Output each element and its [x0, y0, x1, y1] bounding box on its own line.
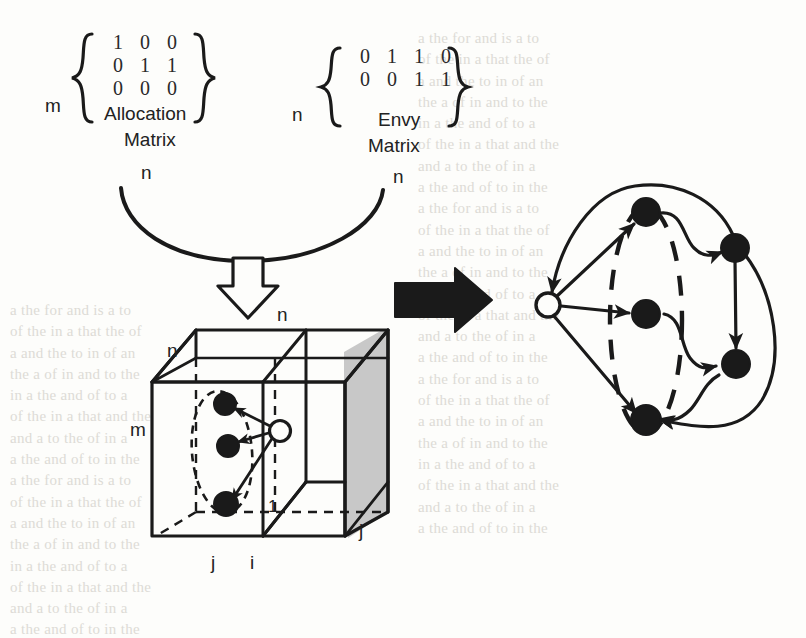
envy-matrix-cell: 1: [441, 69, 451, 89]
allocation-matrix-cell: 0: [113, 55, 123, 75]
allocation-matrix-brace-left: [72, 34, 92, 122]
allocation-matrix-cell: 0: [167, 78, 177, 98]
graph-node-filled: [631, 405, 661, 435]
graph-node-filled: [632, 300, 660, 328]
envy-matrix-cell: 0: [360, 46, 370, 66]
envy-matrix-cell: 0: [360, 69, 370, 89]
graph-node-filled: [722, 350, 750, 378]
allocation-matrix-caption-line1: Allocation: [104, 104, 186, 123]
cube-label-top-left: n: [167, 341, 178, 360]
allocation-matrix-cell: 1: [113, 32, 123, 52]
envy-matrix-caption-line1: Envy: [378, 110, 420, 129]
graph-edge: [561, 306, 629, 313]
cube-node-filled: [217, 435, 239, 457]
envy-matrix-cell: 0: [441, 46, 451, 66]
graph-edge: [554, 316, 636, 413]
allocation-matrix-cell: 0: [167, 32, 177, 52]
envy-matrix-cell: 1: [387, 46, 397, 66]
envy-matrix-brace-left: [321, 48, 340, 126]
cube-label-top-back: n: [277, 305, 288, 324]
graph-edge: [659, 375, 719, 420]
allocation-matrix-brace-right: [195, 34, 215, 122]
allocation-matrix-col-label: n: [141, 163, 152, 182]
cube-node-filled: [214, 393, 236, 415]
allocation-matrix-cell: 1: [167, 55, 177, 75]
transform-arrow-icon: [395, 268, 492, 332]
allocation-matrix-caption-line2: Matrix: [124, 130, 176, 149]
envy-matrix-row-label: n: [292, 105, 303, 124]
cube-node-hollow: [270, 421, 291, 442]
envy-matrix-cell: 1: [414, 69, 424, 89]
envy-matrix-cell: 1: [414, 46, 424, 66]
envy-matrix-caption-line2: Matrix: [368, 136, 420, 155]
wait-for-graph: [536, 185, 775, 435]
cube-label-left: m: [130, 420, 146, 439]
graph-node-hollow: [536, 293, 560, 317]
allocation-matrix-cell: 0: [140, 78, 150, 98]
allocation-matrix-cell: 0: [140, 32, 150, 52]
cube-node-filled: [214, 492, 238, 516]
envy-matrix-col-label: n: [393, 167, 404, 186]
cube-label-bottom-left: j: [211, 553, 215, 572]
graph-edge: [664, 314, 716, 368]
graph-edge: [556, 224, 634, 297]
allocation-matrix-row-label: m: [45, 96, 61, 115]
envy-matrix-cell: 0: [387, 69, 397, 89]
envy-matrix-brace-right: [449, 48, 468, 126]
merge-arrow-icon: [218, 258, 278, 318]
graph-edge: [735, 260, 736, 348]
cube-label-inner: 1: [268, 498, 277, 515]
cube-label-right: j: [359, 521, 363, 540]
graph-node-filled: [632, 198, 660, 226]
merge-curve: [121, 188, 383, 261]
allocation-matrix-cell: 0: [113, 78, 123, 98]
cube-label-bottom-mid: i: [250, 553, 254, 572]
allocation-matrix-cell: 1: [140, 55, 150, 75]
graph-edge: [660, 213, 722, 256]
graph-node-filled: [721, 234, 749, 262]
